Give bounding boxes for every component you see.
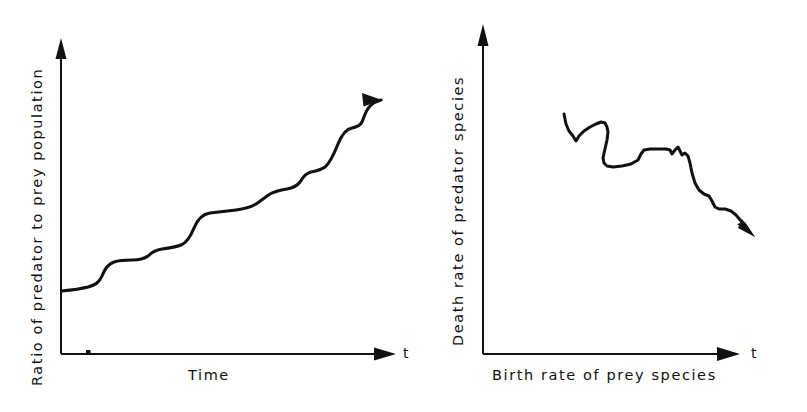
right-x-axis-label: Birth rate of prey species: [492, 368, 717, 383]
right-y-axis: [478, 24, 489, 354]
right-data-curve: [564, 114, 755, 237]
left-data-curve: [62, 93, 382, 291]
left-y-axis: [56, 38, 67, 354]
right-x-axis: [483, 347, 740, 361]
right-x-axis-variable-letter: t: [751, 346, 757, 360]
left-x-axis: [61, 348, 396, 361]
figure-root: Ratio of predator to prey population Tim…: [0, 0, 807, 412]
left-x-axis-label: Time: [188, 368, 230, 383]
chart-panel-predator-prey-ratio: Ratio of predator to prey population Tim…: [0, 0, 404, 412]
right-y-axis-label: Death rate of predator species: [451, 76, 466, 346]
left-chart-canvas: [0, 0, 404, 412]
left-x-axis-origin-tick: [86, 350, 91, 355]
chart-panel-death-vs-birth-rate: Death rate of predator species Birth rat…: [403, 0, 807, 412]
left-y-axis-label: Ratio of predator to prey population: [30, 68, 45, 386]
